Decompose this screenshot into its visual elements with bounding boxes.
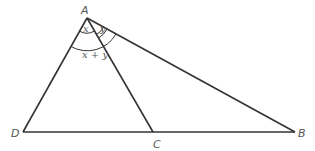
segment-ab	[87, 18, 295, 132]
point-label-a: A	[80, 4, 89, 17]
angle-label-x-plus-y: x + y	[82, 49, 108, 60]
point-label-b: B	[298, 127, 306, 140]
angle-label-x: x	[83, 23, 89, 34]
point-label-d: D	[11, 127, 19, 140]
point-label-c: C	[153, 138, 161, 151]
segment-ad	[23, 18, 87, 132]
angle-label-y: y	[99, 23, 106, 34]
triangle-diagram: A B C D x y x + y	[0, 0, 315, 151]
segment-ac	[87, 18, 153, 132]
